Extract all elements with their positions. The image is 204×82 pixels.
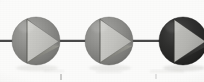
bead-1-highlight <box>18 22 34 33</box>
bead-2 <box>85 17 133 71</box>
bead-2-highlight <box>91 22 107 33</box>
tick-marks <box>61 74 156 80</box>
bead-2-shadow <box>89 65 131 71</box>
figure-canvas <box>0 0 204 82</box>
bead-3-highlight <box>165 22 181 33</box>
bead-sequence-figure <box>0 0 204 82</box>
bead-3 <box>159 17 204 71</box>
bead-1 <box>12 17 60 71</box>
